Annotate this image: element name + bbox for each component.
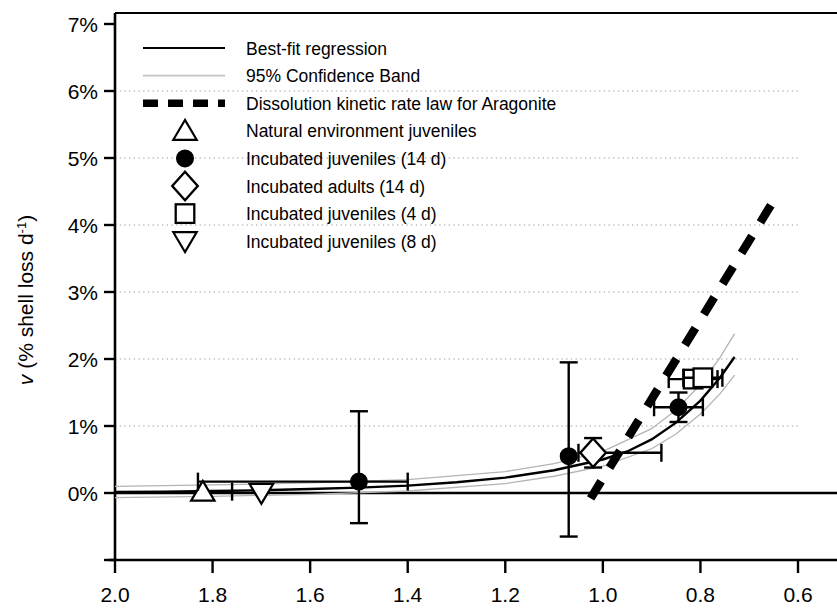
legend-item[interactable]: 95% Confidence Band [143, 66, 420, 86]
data-series [198, 362, 703, 536]
y-axis-tick-label: 2% [68, 348, 98, 371]
y-axis-title-text: v (% shell loss d-1) [14, 215, 38, 385]
y-axis-tick-label: 7% [68, 13, 98, 36]
legend-item[interactable]: Incubated juveniles (8 d) [173, 232, 436, 252]
x-axis-tick-label: 1.0 [588, 583, 617, 606]
x-axis-tick-label: 2.0 [100, 583, 129, 606]
x-axis-ticks [115, 560, 798, 573]
legend-triangle-up-open-icon [173, 120, 196, 140]
best-fit-regression-curve [115, 357, 735, 492]
x-axis-tick-label: 1.6 [296, 583, 325, 606]
x-axis-tick-label: 1.4 [393, 583, 423, 606]
chart-legend: Best-fit regression95% Confidence BandDi… [143, 39, 556, 253]
confidence-band [115, 334, 735, 498]
x-axis-tick-label: 1.2 [491, 583, 520, 606]
legend-item-label: Incubated juveniles (4 d) [246, 204, 437, 224]
data-series-layer [191, 362, 722, 536]
y-axis-title: v (% shell loss d-1) [14, 215, 38, 385]
legend-marker [173, 120, 196, 140]
legend-item[interactable]: Incubated adults (14 d) [172, 172, 425, 201]
data-series [578, 438, 661, 467]
legend-triangle-down-open-icon [173, 232, 196, 252]
legend-marker [176, 204, 195, 223]
legend-marker [173, 232, 196, 252]
legend-item[interactable]: Incubated juveniles (4 d) [176, 204, 437, 224]
y-axis-ticks [104, 24, 115, 560]
y-axis-tick-labels: 0%1%2%3%4%5%6%7% [68, 13, 98, 505]
y-axis-tick-label: 1% [68, 415, 98, 438]
x-axis-tick-label: 0.8 [686, 583, 715, 606]
data-point-marker [560, 448, 577, 465]
legend-marker [177, 150, 194, 167]
y-axis-tick-label: 3% [68, 281, 98, 304]
legend-item-label: Incubated adults (14 d) [246, 177, 425, 197]
y-axis-tick-label: 5% [68, 147, 98, 170]
legend-item[interactable]: Best-fit regression [143, 39, 387, 59]
legend-circle-filled-icon [177, 150, 194, 167]
y-axis-title-rest: (% shell loss d [14, 233, 37, 374]
legend-square-open-icon [176, 204, 195, 223]
shell-dissolution-scatter-chart: 0%1%2%3%4%5%6%7%2.01.81.61.41.21.00.80.6… [0, 0, 837, 612]
legend-item[interactable]: Natural environment juveniles [173, 120, 476, 141]
data-point-marker [351, 473, 368, 490]
data-point[interactable] [198, 411, 408, 523]
confidence-band-upper [115, 334, 735, 487]
legend-item-label: Incubated juveniles (14 d) [246, 149, 446, 169]
legend-marker [172, 172, 198, 201]
y-axis-title-tail: ) [14, 215, 37, 222]
data-point[interactable] [578, 438, 661, 467]
confidence-band-lower [115, 375, 735, 498]
legend-item[interactable]: Dissolution kinetic rate law for Aragoni… [143, 94, 556, 114]
legend-item[interactable]: Incubated juveniles (14 d) [177, 149, 447, 169]
grid-lines [115, 91, 798, 560]
legend-item-label: Natural environment juveniles [246, 121, 477, 141]
data-point[interactable] [560, 362, 578, 536]
y-axis-tick-label: 4% [68, 214, 98, 237]
y-axis-tick-label: 0% [68, 482, 98, 505]
data-point-marker [670, 399, 687, 416]
y-axis-tick-label: 6% [68, 80, 98, 103]
legend-item-label: Best-fit regression [246, 39, 387, 59]
legend-item-label: Incubated juveniles (8 d) [246, 232, 437, 252]
legend-item-label: 95% Confidence Band [246, 66, 420, 86]
x-axis-tick-label: 1.8 [198, 583, 227, 606]
chart-figure: 0%1%2%3%4%5%6%7%2.01.81.61.41.21.00.80.6… [0, 0, 837, 612]
x-axis-tick-labels: 2.01.81.61.41.21.00.80.6 [100, 583, 812, 606]
y-axis-title-superscript: -1 [14, 222, 29, 234]
legend-item-label: Dissolution kinetic rate law for Aragoni… [246, 94, 556, 114]
data-point-marker [694, 368, 713, 387]
x-axis-tick-label: 0.6 [783, 583, 812, 606]
legend-diamond-open-icon [172, 172, 198, 201]
